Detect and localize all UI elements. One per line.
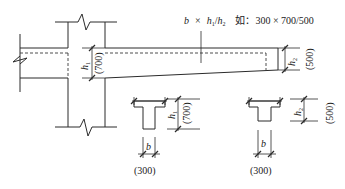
svg-text:b: b	[146, 141, 151, 152]
svg-text:(300): (300)	[134, 165, 156, 177]
svg-text:(500): (500)	[324, 102, 336, 124]
svg-text:(700): (700)	[181, 102, 193, 124]
svg-text:(300): (300)	[250, 165, 272, 177]
h2-dimension: h2 (500)	[278, 45, 316, 73]
svg-text:h1: h1	[79, 62, 91, 70]
svg-text:(700): (700)	[93, 52, 105, 74]
section-annotation: b × h1/h2 如：300 × 700/500	[184, 10, 314, 29]
column-bottom-break-line	[55, 119, 117, 136]
column	[55, 14, 117, 136]
section-left-t-beam: h1 (700) b (300)	[131, 96, 200, 177]
left-beam-stub	[13, 34, 68, 92]
svg-text:b × h1/h2 如：: b × h1/h2 如：300 × 700/500	[184, 10, 314, 29]
svg-text:h1: h1	[166, 111, 178, 119]
section-right-t-beam: h2 (500) b (300)	[246, 96, 336, 177]
svg-text:h2: h2	[292, 108, 304, 116]
h1-dimension: h1 (700)	[79, 45, 105, 81]
svg-text:b: b	[261, 138, 266, 149]
haunched-beam-diagram: b × h1/h2 如：300 × 700/500 h1 (700) h2 (5…	[0, 0, 345, 189]
svg-text:(500): (500)	[304, 48, 316, 70]
haunched-beam	[105, 31, 278, 78]
svg-text:h2: h2	[286, 58, 298, 66]
beam-sloped-bottom-edge	[105, 70, 278, 78]
column-top-break-line	[55, 14, 117, 30]
